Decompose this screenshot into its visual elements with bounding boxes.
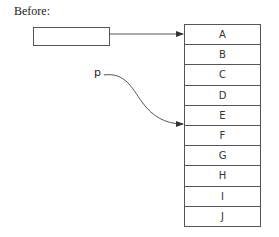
array-cell-e: E bbox=[185, 106, 260, 126]
array-cell-j: J bbox=[185, 207, 260, 227]
array-cell-b: B bbox=[185, 45, 260, 65]
array-cell-h: H bbox=[185, 166, 260, 186]
array-cell-f: F bbox=[185, 126, 260, 146]
array-cell-c: C bbox=[185, 65, 260, 85]
array-cell-d: D bbox=[185, 86, 260, 106]
array-column: A B C D E F G H I J bbox=[184, 24, 261, 227]
array-cell-a: A bbox=[185, 25, 260, 45]
p-to-e-arrow bbox=[104, 75, 183, 124]
array-cell-g: G bbox=[185, 146, 260, 166]
array-cell-i: I bbox=[185, 187, 260, 207]
